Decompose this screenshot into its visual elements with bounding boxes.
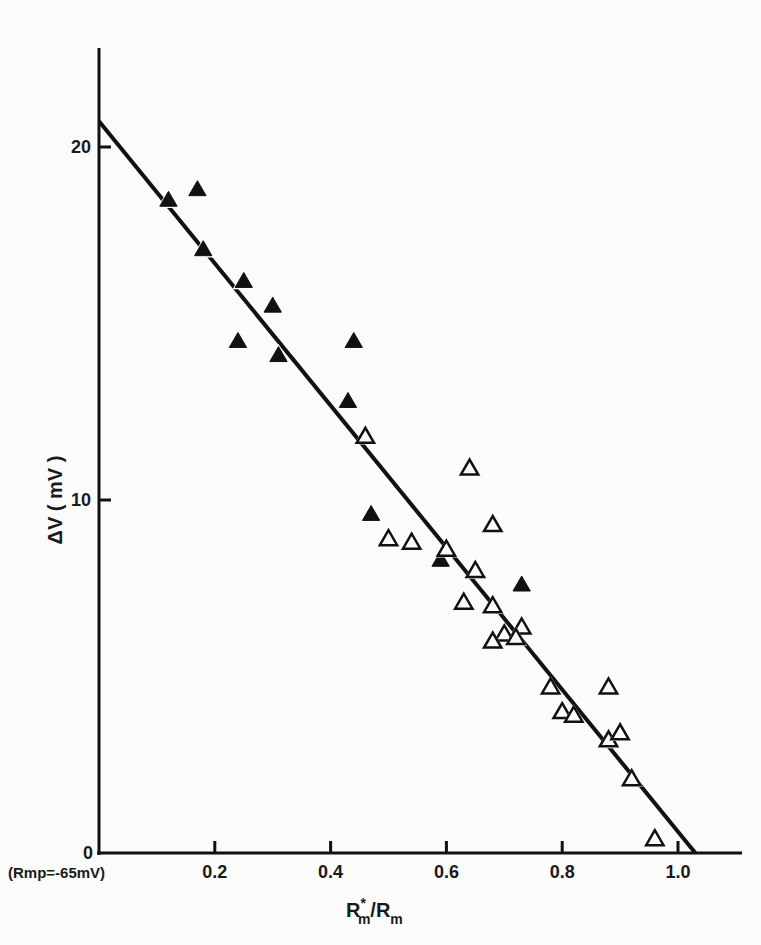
y-axis-label: ΔV ( mV ) [44, 456, 66, 545]
x-axis-title: R*m/Rm [346, 895, 403, 927]
y-tick-label: 20 [71, 137, 91, 157]
filled-triangle-point [235, 272, 252, 287]
open-triangle-point [646, 830, 663, 845]
open-triangle-point [357, 428, 374, 443]
open-triangle-point [484, 516, 501, 531]
open-triangle-point [403, 534, 420, 549]
open-triangle-point [467, 562, 484, 577]
filled-triangle-point [189, 181, 206, 196]
filled-triangle-point [339, 392, 356, 407]
open-triangle-point [600, 678, 617, 693]
open-triangle-point [611, 724, 628, 739]
open-triangle-point [455, 594, 472, 609]
open-triangle-point [461, 460, 478, 475]
svg-text:R*m/Rm: R*m/Rm [346, 895, 403, 927]
scatter-chart: 01020 0.20.40.60.81.0 (Rmp=-65mV) ΔV ( m… [0, 0, 761, 945]
x-tick-label: 1.0 [665, 862, 690, 882]
x-ticks: 0.20.40.60.81.0 [202, 841, 690, 882]
axes: 01020 0.20.40.60.81.0 [71, 48, 742, 882]
x-tick-label: 0.4 [318, 862, 343, 882]
y-axis-title: ΔV ( mV ) [44, 456, 66, 545]
y-ticks: 01020 [71, 137, 111, 863]
open-triangle-point [623, 770, 640, 785]
filled-triangle-point [264, 297, 281, 312]
rmp-annotation: (Rmp=-65mV) [8, 864, 105, 881]
y-tick-label: 0 [83, 843, 93, 863]
data-points [157, 178, 666, 847]
filled-triangle-point [362, 505, 379, 520]
y-tick-label: 10 [71, 490, 91, 510]
filled-triangle-point [513, 576, 530, 591]
open-triangle-point [380, 530, 397, 545]
filled-triangle-point [345, 332, 362, 347]
x-tick-label: 0.8 [550, 862, 575, 882]
filled-triangle-point [229, 332, 246, 347]
x-tick-label: 0.6 [434, 862, 459, 882]
x-tick-label: 0.2 [202, 862, 227, 882]
